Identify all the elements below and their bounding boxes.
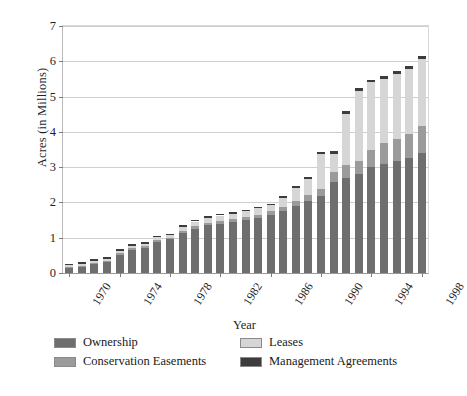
bar-segment-management-agreements <box>405 66 413 69</box>
bar-segment-ownership <box>216 224 224 273</box>
bar-1983 <box>229 26 237 273</box>
legend-item-leases[interactable]: Leases <box>240 335 444 350</box>
bar-1997 <box>405 26 413 273</box>
bar-segment-management-agreements <box>229 212 237 214</box>
bar-segment-leases <box>279 198 287 207</box>
bar-segment-ownership <box>128 250 136 273</box>
bar-segment-conservation-easements <box>342 165 350 177</box>
legend-item-management-agreements[interactable]: Management Agreements <box>240 354 444 369</box>
bar-1995 <box>380 26 388 273</box>
x-tick-mark <box>321 273 322 277</box>
legend-label: Conservation Easements <box>83 354 206 369</box>
bar-segment-ownership <box>78 267 86 273</box>
bar-segment-conservation-easements <box>254 215 262 218</box>
bar-segment-conservation-easements <box>292 201 300 206</box>
bar-1976 <box>141 26 149 273</box>
bar-segment-ownership <box>304 201 312 273</box>
x-tick-mark <box>170 273 171 277</box>
bar-segment-management-agreements <box>204 216 212 218</box>
y-tick-label: 0 <box>50 266 56 281</box>
bar-1970 <box>65 26 73 273</box>
bar-1993 <box>355 26 363 273</box>
y-axis-title: Acres (in Millions) <box>35 0 50 238</box>
bar-segment-ownership <box>229 222 237 273</box>
x-tick-label: 1994 <box>392 280 417 308</box>
bar-segment-conservation-easements <box>179 231 187 233</box>
bar-segment-leases <box>90 261 98 263</box>
bar-1984 <box>242 26 250 273</box>
bar-segment-management-agreements <box>65 264 73 266</box>
bar-segment-leases <box>317 154 325 189</box>
legend-item-conservation-easements[interactable]: Conservation Easements <box>54 354 240 369</box>
bar-segment-conservation-easements <box>65 267 73 268</box>
bar-segment-management-agreements <box>393 71 401 74</box>
bar-segment-ownership <box>242 220 250 273</box>
bar-segment-conservation-easements <box>330 172 338 182</box>
bar-segment-leases <box>229 214 237 219</box>
bar-segment-management-agreements <box>292 186 300 188</box>
bar-segment-leases <box>116 251 124 253</box>
bar-segment-leases <box>254 208 262 214</box>
bar-1975 <box>128 26 136 273</box>
bar-segment-leases <box>65 265 73 267</box>
bar-1971 <box>78 26 86 273</box>
bar-group <box>63 26 428 273</box>
chart-legend: OwnershipLeasesConservation EasementsMan… <box>54 333 444 371</box>
bar-1972 <box>90 26 98 273</box>
bar-segment-leases <box>128 246 136 248</box>
bar-segment-ownership <box>267 215 275 273</box>
plot-area: 01234567 1970197419781982198619901994199… <box>62 25 429 274</box>
bar-segment-management-agreements <box>179 225 187 227</box>
bar-1994 <box>367 26 375 273</box>
x-tick-label: 1970 <box>90 280 115 308</box>
bar-1978 <box>166 26 174 273</box>
y-tick-label: 1 <box>50 230 56 245</box>
bar-1989 <box>304 26 312 273</box>
bar-segment-management-agreements <box>342 111 350 114</box>
bar-segment-leases <box>367 82 375 149</box>
bar-segment-ownership <box>380 164 388 273</box>
bar-segment-leases <box>292 188 300 201</box>
legend-swatch-icon <box>240 338 262 348</box>
bar-segment-management-agreements <box>116 249 124 251</box>
bar-segment-leases <box>267 205 275 211</box>
bar-segment-ownership <box>418 153 426 273</box>
bar-segment-ownership <box>153 242 161 273</box>
y-tick-label: 4 <box>50 124 56 139</box>
bar-segment-conservation-easements <box>355 161 363 174</box>
legend-swatch-icon <box>54 357 76 367</box>
legend-item-ownership[interactable]: Ownership <box>54 335 240 350</box>
bar-segment-conservation-easements <box>304 195 312 201</box>
bar-segment-leases <box>304 179 312 195</box>
legend-label: Management Agreements <box>269 354 397 369</box>
bar-segment-ownership <box>393 161 401 273</box>
bar-segment-conservation-easements <box>191 226 199 228</box>
bar-1973 <box>103 26 111 273</box>
bar-segment-leases <box>342 114 350 165</box>
bar-segment-management-agreements <box>90 259 98 261</box>
y-tick-label: 2 <box>50 195 56 210</box>
bar-1974 <box>116 26 124 273</box>
bar-segment-management-agreements <box>267 204 275 206</box>
bar-segment-management-agreements <box>153 236 161 238</box>
bar-segment-leases <box>355 91 363 161</box>
bar-segment-management-agreements <box>330 151 338 154</box>
bar-segment-ownership <box>191 229 199 273</box>
x-tick-label: 1998 <box>442 280 467 308</box>
bar-segment-management-agreements <box>367 80 375 83</box>
bar-segment-management-agreements <box>103 257 111 259</box>
bar-segment-leases <box>78 264 86 266</box>
bar-1991 <box>330 26 338 273</box>
x-tick-mark <box>69 273 70 277</box>
legend-label: Leases <box>269 335 303 350</box>
bar-segment-conservation-easements <box>405 134 413 158</box>
bar-segment-conservation-easements <box>367 150 375 168</box>
bar-segment-management-agreements <box>216 214 224 216</box>
bar-segment-conservation-easements <box>141 246 149 248</box>
legend-label: Ownership <box>83 335 138 350</box>
bar-segment-conservation-easements <box>242 217 250 220</box>
bar-segment-conservation-easements <box>393 139 401 161</box>
bar-1990 <box>317 26 325 273</box>
bar-segment-management-agreements <box>304 177 312 179</box>
x-tick-label: 1982 <box>241 280 266 308</box>
